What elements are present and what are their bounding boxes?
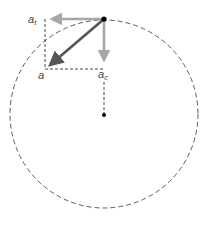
tangential-label: at [28, 13, 37, 27]
acceleration-diagram: at a ac [0, 0, 200, 225]
centripetal-label: ac [98, 68, 108, 82]
particle-dot [101, 16, 106, 21]
center-dot [102, 113, 106, 117]
total-label: a [38, 69, 44, 81]
total-acceleration-arrow [50, 19, 104, 65]
